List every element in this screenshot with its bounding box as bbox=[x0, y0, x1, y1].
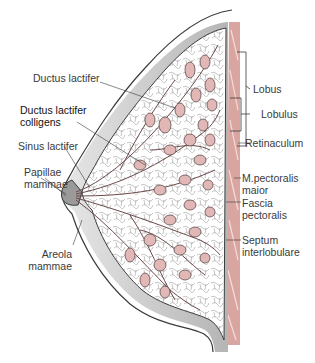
label-m-pectoralis-maior: M.pectoralismaior bbox=[242, 172, 299, 196]
label-fascia-pectoralis: Fasciapectoralis bbox=[242, 197, 287, 221]
label-retinaculum: Retinaculum bbox=[245, 137, 303, 149]
label-septum-interlobulare: Septuminterlobulare bbox=[242, 234, 300, 258]
label-lobus: Lobus bbox=[253, 83, 282, 95]
label-papillae-mammae: Papillaemammae bbox=[24, 166, 68, 190]
label-ductus-lactifer-colligens: Ductus lactifercolligens bbox=[20, 104, 87, 128]
label-lobulus: Lobulus bbox=[261, 108, 298, 120]
label-ductus-lactifer: Ductus lactifer bbox=[33, 72, 100, 84]
label-areola-mammae: Areolamammae bbox=[22, 248, 72, 272]
label-sinus-lactifer: Sinus lactifer bbox=[18, 140, 78, 152]
